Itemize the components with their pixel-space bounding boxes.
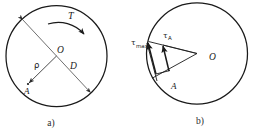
radial-line-to-point-a bbox=[153, 54, 198, 79]
label-point-A-b: A bbox=[170, 81, 177, 91]
torsion-stress-figure: T O D ρ A a) τ m bbox=[0, 0, 253, 134]
label-torque-T: T bbox=[68, 10, 75, 21]
torque-arc-arrow bbox=[48, 22, 84, 34]
caption-panel-a: a) bbox=[47, 118, 54, 129]
figure-canvas: T O D ρ A a) τ m bbox=[0, 0, 253, 134]
point-a-marker-panel-a bbox=[27, 83, 29, 85]
label-tau-max-subscript: max bbox=[136, 43, 149, 49]
caption-panel-b: b) bbox=[196, 116, 204, 127]
label-tau-a-subscript: A bbox=[168, 35, 172, 41]
label-center-O-a: O bbox=[57, 45, 64, 55]
panel-b: τ max τ A O A b) bbox=[131, 3, 248, 127]
tau-a-vector bbox=[163, 46, 169, 71]
triangle-upper-edge bbox=[163, 45, 197, 54]
panel-a: T O D ρ A a) bbox=[6, 6, 107, 130]
vector-tail-base-line bbox=[156, 71, 170, 75]
label-diameter-D: D bbox=[69, 61, 77, 71]
label-radius-rho: ρ bbox=[34, 60, 39, 70]
label-center-O-b: O bbox=[209, 52, 216, 62]
label-point-A-a: A bbox=[23, 86, 30, 96]
